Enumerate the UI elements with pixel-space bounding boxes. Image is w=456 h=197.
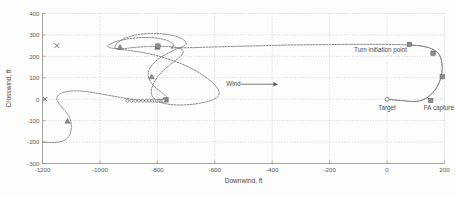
marker-circle-chain-item [130, 99, 133, 102]
x-tick-label: -800 [151, 166, 164, 173]
x-axis-title: Downwind, ft [225, 177, 263, 184]
square-fa-capture [429, 98, 433, 102]
y-tick-label: 200 [29, 53, 40, 60]
square-turn-init [407, 42, 411, 46]
x-marker-lower-left [55, 43, 59, 47]
x-tick-label: -600 [209, 166, 222, 173]
marker-circle-chain-item [162, 99, 165, 102]
triangle-mid-left [149, 74, 154, 79]
axis-ticks: -1200-1000-800-600-400-2000200-300-200-1… [27, 10, 450, 173]
marker-circle-chain-item [141, 99, 144, 102]
x-tick-label: 200 [439, 166, 450, 173]
annotation-target: Target [378, 104, 396, 112]
wind-arrow-annotation [241, 82, 278, 86]
annotation-turn-initiation: Turn initiation point [354, 46, 407, 54]
marker-circle-chain-item [134, 99, 137, 102]
annotation-layer: TargetFA captureTurn initiation pointWin… [226, 46, 454, 113]
plot-frame [43, 14, 445, 164]
marker-circle-chain-item [137, 99, 140, 102]
wind-arrow-head [273, 82, 278, 86]
y-tick-label: -300 [27, 160, 40, 167]
y-tick-label: -100 [27, 117, 40, 124]
y-tick-label: 400 [29, 10, 40, 17]
target-circle [385, 97, 389, 101]
square-right-mid [440, 75, 444, 79]
annotation-fa-capture: FA capture [424, 104, 455, 112]
figure-container: -1200-1000-800-600-400-2000200-300-200-1… [0, 0, 456, 197]
marker-circle-chain-item [148, 99, 151, 102]
y-tick-label: 300 [29, 31, 40, 38]
square-bottom [156, 44, 160, 48]
y-tick-label: -200 [27, 138, 40, 145]
x-tick-label: -1000 [92, 166, 108, 173]
y-tick-label: 100 [29, 74, 40, 81]
x-tick-label: -200 [323, 166, 336, 173]
trajectory-plot: -1200-1000-800-600-400-2000200-300-200-1… [0, 0, 456, 197]
x-tick-label: -400 [266, 166, 279, 173]
annotation-wind: Wind [226, 80, 241, 87]
grid-layer [43, 14, 445, 164]
marker-circle-chain-item [126, 99, 129, 102]
y-tick-label: 0 [36, 96, 40, 103]
x-tick-label: 0 [385, 166, 389, 173]
triangle-bottom-a [117, 45, 122, 50]
marker-circle-chain-item [145, 99, 148, 102]
y-axis-title: Crosswind, ft [5, 69, 12, 107]
axis-spine [43, 14, 445, 164]
square-right-lower [431, 51, 435, 55]
